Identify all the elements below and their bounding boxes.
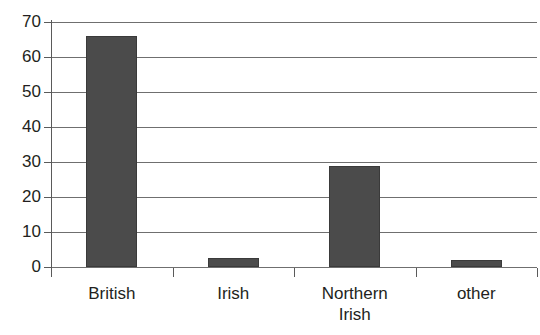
- y-axis-line: [51, 20, 52, 269]
- y-tick-mark: [44, 57, 51, 58]
- x-tick-mark: [173, 268, 174, 277]
- y-tick-mark: [44, 197, 51, 198]
- chart-title-cropped: [0, 0, 540, 2]
- gridline: [51, 22, 537, 23]
- y-tick-label: 10: [0, 223, 41, 240]
- y-tick-mark: [44, 22, 51, 23]
- x-axis-category-label: NorthernIrish: [294, 283, 416, 325]
- x-axis-category-label: other: [416, 283, 538, 304]
- x-tick-mark: [294, 268, 295, 277]
- y-tick-mark: [44, 267, 51, 268]
- x-axis-category-line: Irish: [173, 283, 295, 304]
- y-tick-mark: [44, 162, 51, 163]
- y-tick-mark: [44, 127, 51, 128]
- y-tick-label: 20: [0, 188, 41, 205]
- y-tick-mark: [44, 232, 51, 233]
- bar-chart: 010203040506070 BritishIrishNorthernIris…: [0, 0, 540, 335]
- y-tick-label: 30: [0, 153, 41, 170]
- y-tick-label: 40: [0, 118, 41, 135]
- x-axis-category-line: Irish: [294, 304, 416, 325]
- y-tick-label: 70: [0, 13, 41, 30]
- plot-area: [51, 22, 537, 267]
- x-axis-category-label: Irish: [173, 283, 295, 304]
- y-tick-label: 60: [0, 48, 41, 65]
- bar: [451, 260, 502, 267]
- bar: [329, 166, 380, 268]
- x-tick-mark: [416, 268, 417, 277]
- x-axis-category-label: British: [51, 283, 173, 304]
- y-tick-mark: [44, 92, 51, 93]
- x-tick-mark: [51, 268, 52, 277]
- y-tick-label: 50: [0, 83, 41, 100]
- x-axis-category-line: British: [51, 283, 173, 304]
- x-axis-category-line: Northern: [294, 283, 416, 304]
- x-axis-category-line: other: [416, 283, 538, 304]
- x-tick-mark: [537, 268, 538, 277]
- bar: [86, 36, 137, 267]
- y-tick-label: 0: [0, 258, 41, 275]
- bar: [208, 258, 259, 267]
